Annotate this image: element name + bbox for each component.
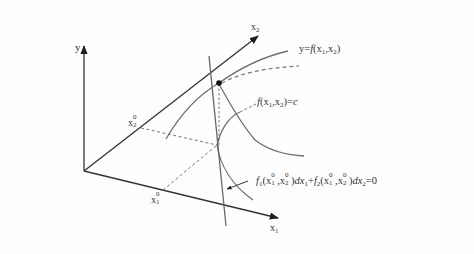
tangent-t1-comma: ,x <box>277 175 285 186</box>
tangent-t2-comma: ,x <box>335 175 343 186</box>
surface-label-open: (x <box>313 43 322 54</box>
x2-axis <box>84 36 258 171</box>
level-label-open: (x <box>260 96 269 107</box>
surface-curve-upper <box>166 51 288 139</box>
tangent-t1-b-supsub: 02 <box>285 176 291 186</box>
level-label-comma: ,x <box>272 96 280 107</box>
tangent-t1-a-sub: 1 <box>271 180 275 187</box>
tangent-t2-a-sup: 0 <box>329 172 333 179</box>
surface-label-lhs: y= <box>299 43 310 54</box>
x1-axis-label: x1 <box>270 223 279 235</box>
tangent-t2-b-supsub: 02 <box>343 176 349 186</box>
tangent-t2-a-sub: 1 <box>329 180 333 187</box>
x2-zero-label: x02 <box>128 118 139 128</box>
tangent-t1-open: (x <box>262 175 271 186</box>
x1-zero-label: x01 <box>151 195 162 205</box>
x1-axis-label-sub: 1 <box>275 227 279 235</box>
x1-axis <box>84 171 278 218</box>
tangent-t1-b-sub: 2 <box>285 180 289 187</box>
tangent-t2-b-sub: 2 <box>343 180 347 187</box>
tangent-dx2: dx <box>352 175 362 186</box>
x2-zero-projection <box>141 128 217 145</box>
surface-dashed-curve <box>222 66 299 83</box>
tangent-t2-open: (x <box>320 175 329 186</box>
tangent-t1-a-supsub: 01 <box>271 176 277 186</box>
level-label-close: )= <box>284 96 293 107</box>
level-curve-leader <box>240 104 256 112</box>
diagram-canvas: y x2 x1 x02 x01 y=f(x1,x2) f(x1,x2)=c f1… <box>0 0 474 254</box>
x2-zero-sub: 2 <box>133 122 137 129</box>
x2-axis-label: x2 <box>251 22 260 34</box>
tangency-point <box>216 80 222 86</box>
surface-label: y=f(x1,x2) <box>299 44 340 56</box>
x1-zero-sup: 0 <box>156 191 160 198</box>
tangent-t2-a-supsub: 01 <box>329 176 335 186</box>
x2-zero-supsub: 02 <box>133 118 139 128</box>
x1-zero-supsub: 01 <box>156 195 162 205</box>
tangent-t1-a-sup: 0 <box>271 172 275 179</box>
level-curve-label: f(x1,x2)=c <box>257 97 298 109</box>
y-axis-label-text: y <box>75 41 81 53</box>
tangent-eq: =0 <box>366 175 377 186</box>
x1-zero-sub: 1 <box>156 199 160 206</box>
surface-curve-descending <box>219 84 304 156</box>
tangent-dx1: dx <box>295 175 305 186</box>
tangent-t1-b-sup: 0 <box>285 172 289 179</box>
x2-axis-label-sub: 2 <box>256 26 260 34</box>
tangent-t2-b-sup: 0 <box>343 172 347 179</box>
tangent-annotation-arrow <box>227 181 248 189</box>
y-axis-label: y <box>75 42 81 53</box>
surface-label-close: ) <box>337 43 341 54</box>
level-label-c: c <box>293 96 298 107</box>
diagram-svg <box>0 0 474 254</box>
x1-zero-projection <box>163 145 217 190</box>
tangent-equation-label: f1(x01,x02)dx1+f2(x01,x02)dx2=0 <box>256 176 377 188</box>
x2-zero-sup: 0 <box>133 114 137 121</box>
